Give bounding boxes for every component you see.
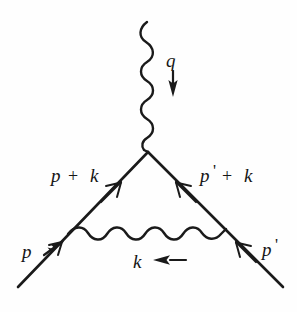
photon-momentum-arrow-down bbox=[168, 71, 177, 97]
label-p-prime-outgoing-prime: ' bbox=[275, 235, 278, 254]
label-p-prime-outgoing: p bbox=[260, 239, 272, 260]
label-p-prime-plus-k-operator: + bbox=[222, 166, 232, 186]
fermion-line-incoming bbox=[18, 152, 148, 287]
label-p-plus-k-addend: k bbox=[90, 165, 99, 186]
label-p-plus-k-operator: + bbox=[68, 166, 78, 186]
label-p-plus-k-base: p bbox=[49, 165, 61, 186]
fermion-arrowhead-outgoing bbox=[236, 242, 256, 262]
photon-momentum-label-k: k bbox=[133, 251, 142, 272]
label-p-prime-plus-k-addend: k bbox=[244, 165, 253, 186]
feynman-diagram-svg: q bbox=[0, 0, 297, 312]
fermion-arrowhead-upper-left bbox=[101, 182, 121, 202]
photon-momentum-label-q: q bbox=[166, 50, 176, 71]
label-p-incoming: p bbox=[20, 241, 32, 262]
photon-momentum-arrow-left bbox=[153, 255, 186, 265]
internal-photon-wavy-line bbox=[68, 227, 226, 239]
fermion-arrowhead-upper-right bbox=[176, 182, 196, 202]
label-p-prime-plus-k-prime: ' bbox=[213, 161, 216, 180]
external-photon-wavy-line bbox=[140, 22, 153, 152]
feynman-diagram-canvas: q bbox=[0, 0, 297, 312]
label-group-incoming-momentum: p bbox=[20, 241, 32, 262]
fermion-arrowhead-incoming bbox=[43, 242, 63, 257]
label-group-upper-left-momentum: p + k bbox=[49, 165, 99, 186]
label-group-upper-right-momentum: p ' + k bbox=[198, 161, 253, 186]
internal-photon-momentum-annotation: k bbox=[133, 251, 186, 272]
label-p-prime-plus-k-base: p bbox=[198, 165, 210, 186]
label-group-outgoing-momentum: p ' bbox=[260, 235, 278, 260]
external-photon-momentum-annotation: q bbox=[166, 50, 178, 97]
